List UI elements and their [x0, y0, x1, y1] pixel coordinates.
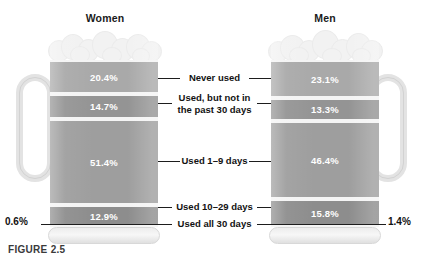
stacked-bar-women: 20.4% 14.7% 51.4% 12.9%	[50, 60, 158, 227]
mug-handle-women	[16, 74, 54, 182]
segment-used-not-past-30-days: 14.7%	[50, 94, 158, 119]
callout-used-not-past-30-days: Used, but not in the past 30 days	[163, 92, 266, 115]
mug-base-women	[48, 227, 160, 244]
mug-women: 20.4% 14.7% 51.4% 12.9%	[50, 28, 158, 243]
segment-used-1-9-days: 51.4%	[50, 119, 158, 205]
column-title-men: Men	[272, 12, 378, 24]
segment-value: 46.4%	[311, 155, 339, 166]
leader-line-outer-men	[276, 224, 386, 225]
callout-used-10-29-days: Used 10–29 days	[158, 201, 271, 213]
beer-foam-women	[46, 28, 162, 62]
segment-never-used: 23.1%	[271, 60, 379, 98]
segment-used-not-past-30-days: 13.3%	[271, 98, 379, 121]
segment-used-1-9-days: 46.4%	[271, 121, 379, 199]
callout-used-all-30-days: Used all 30 days	[158, 218, 271, 230]
leader-line-outer-women	[41, 224, 153, 225]
segment-value: 23.1%	[311, 74, 339, 85]
outer-value-men: 1.4%	[388, 216, 411, 227]
mug-men: 23.1% 13.3% 46.4% 15.8%	[271, 28, 379, 243]
mug-base-men	[269, 227, 381, 244]
segment-used-10-29-days: 15.8%	[271, 199, 379, 227]
figure-caption: FIGURE 2.5	[8, 244, 65, 253]
stacked-bar-men: 23.1% 13.3% 46.4% 15.8%	[271, 60, 379, 227]
figure-root: Women Men 20.4% 14.7% 51.4%	[0, 0, 423, 253]
segment-value: 12.9%	[90, 211, 118, 222]
segment-value: 20.4%	[90, 72, 118, 83]
beer-foam-men	[267, 28, 383, 62]
segment-value: 15.8%	[311, 208, 339, 219]
segment-value: 13.3%	[311, 104, 339, 115]
callout-never-used: Never used	[163, 72, 266, 84]
outer-value-women: 0.6%	[5, 216, 28, 227]
segment-value: 14.7%	[90, 101, 118, 112]
column-title-women: Women	[52, 12, 158, 24]
segment-never-used: 20.4%	[50, 60, 158, 94]
segment-value: 51.4%	[90, 157, 118, 168]
callout-used-1-9-days: Used 1–9 days	[163, 155, 266, 167]
